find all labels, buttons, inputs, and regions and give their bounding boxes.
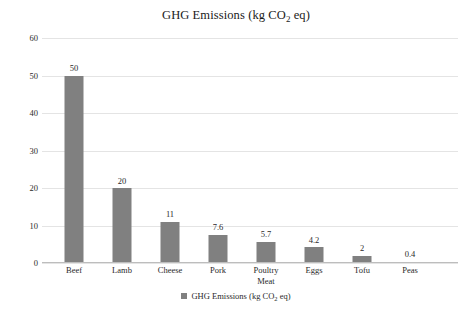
x-axis-category-label-line: Eggs [290,265,338,276]
chart-legend: GHG Emissions (kg CO2 eq) [0,291,472,301]
bar-slot: 20 [98,38,146,263]
legend-label-after: eq) [278,291,291,301]
y-axis-tick-label: 60 [4,34,38,43]
x-axis-category-label: Peas [386,265,434,276]
bar-value-label: 0.4 [405,250,416,259]
bar[interactable] [161,222,180,263]
bar-value-label: 5.7 [261,230,272,239]
x-axis-category-label-line: Meat [242,276,290,287]
x-axis-category-labels: BeefLambCheesePorkPoultryMeatEggsTofuPea… [42,265,458,293]
bar-slot: 7.6 [194,38,242,263]
x-axis-category-label-line: Lamb [98,265,146,276]
chart-title-text-after: eq) [291,8,311,22]
x-axis-category-label: Pork [194,265,242,276]
y-axis-tick-labels: 0102030405060 [0,38,38,263]
ghg-emissions-bar-chart: GHG Emissions (kg CO2 eq) 0102030405060 … [0,0,472,310]
bar-value-label: 2 [360,244,364,253]
x-axis-category-label: Beef [50,265,98,276]
y-axis-tick-label: 0 [4,259,38,268]
y-axis-tick-label: 40 [4,109,38,118]
bar-value-label: 4.2 [309,236,320,245]
x-axis-category-label: PoultryMeat [242,265,290,286]
bar-slot: 50 [50,38,98,263]
x-axis-category-label: Lamb [98,265,146,276]
x-axis-category-label: Cheese [146,265,194,276]
bar[interactable] [113,188,132,263]
bar-slot: 2 [338,38,386,263]
bar[interactable] [65,76,84,264]
chart-title-text-before: GHG Emissions (kg CO [162,8,286,22]
bar-slot: 5.7 [242,38,290,263]
bar-value-label: 50 [70,64,79,73]
bar[interactable] [209,235,228,264]
bar-slot: 4.2 [290,38,338,263]
chart-title-subscript: 2 [286,14,291,24]
y-axis-tick-label: 20 [4,184,38,193]
legend-entry-label: GHG Emissions (kg CO2 eq) [191,291,290,301]
plot-area: 5020117.65.74.220.4 [42,38,458,263]
bar[interactable] [257,242,276,263]
y-axis-tick-label: 10 [4,221,38,230]
bar-value-label: 11 [166,210,174,219]
x-axis-category-label-line: Pork [194,265,242,276]
chart-title: GHG Emissions (kg CO2 eq) [0,8,472,23]
y-axis-tick-label: 50 [4,71,38,80]
bar-value-label: 7.6 [213,223,224,232]
y-axis-tick-label: 30 [4,146,38,155]
x-axis-category-label-line: Cheese [146,265,194,276]
x-axis-line [42,262,458,263]
bar-value-label: 20 [118,177,127,186]
bar[interactable] [305,247,324,263]
x-axis-category-label: Tofu [338,265,386,276]
x-axis-category-label-line: Tofu [338,265,386,276]
x-axis-category-label: Eggs [290,265,338,276]
bar-slot: 0.4 [386,38,434,263]
legend-label-before: GHG Emissions (kg CO [191,291,274,301]
bar-slot: 11 [146,38,194,263]
legend-label-subscript: 2 [274,295,277,302]
x-axis-category-label-line: Beef [50,265,98,276]
x-axis-category-label-line: Poultry [242,265,290,276]
x-axis-category-label-line: Peas [386,265,434,276]
legend-swatch-icon [181,293,187,299]
gridline [42,263,458,264]
